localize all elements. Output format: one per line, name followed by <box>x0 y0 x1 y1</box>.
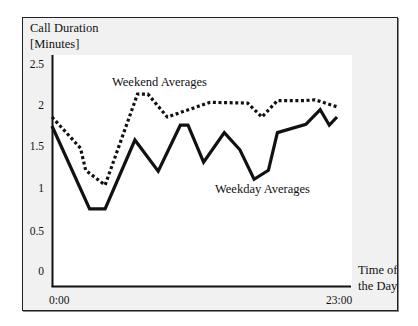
weekday-series-label: Weekday Averages <box>215 182 310 197</box>
weekend-series-label: Weekend Averages <box>112 75 207 90</box>
line-plot <box>0 0 418 326</box>
